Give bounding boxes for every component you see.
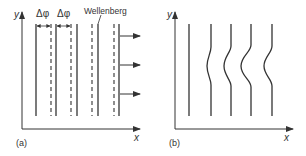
delta-phi-label-2: Δφ	[57, 8, 71, 19]
solid-wavefronts	[36, 24, 119, 116]
y-axis-label: y	[13, 9, 20, 20]
panel-b-label: (b)	[169, 138, 180, 148]
wavefront-diagram: y x Δφ Δφ Wellenberg (a) y x (b)	[0, 0, 306, 156]
crest-label: Wellenberg	[84, 6, 127, 16]
y-axis-label: y	[166, 9, 173, 20]
x-axis-label: x	[133, 132, 140, 143]
panel-a-label: (a)	[16, 138, 27, 148]
propagation-arrows	[120, 36, 140, 94]
crest-leader	[98, 15, 101, 24]
panel-b: y x (b)	[166, 9, 293, 148]
distorted-wavefronts	[189, 24, 272, 116]
dashed-wavefronts	[51, 24, 114, 116]
delta-phi-label-1: Δφ	[36, 8, 50, 19]
x-axis-label: x	[283, 132, 290, 143]
panel-a: y x Δφ Δφ Wellenberg (a)	[13, 6, 140, 148]
